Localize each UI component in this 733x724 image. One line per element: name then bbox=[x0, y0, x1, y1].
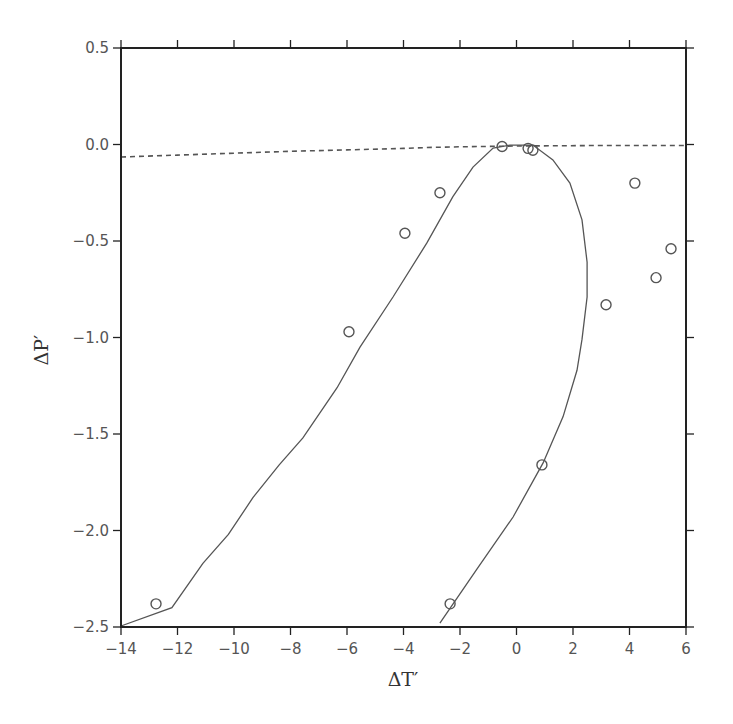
reference-curve-path bbox=[121, 146, 686, 158]
y-axis-ticks: 0.50.0−0.5−1.0−1.5−2.0−2.5 bbox=[73, 39, 694, 636]
x-tick-label: −12 bbox=[162, 640, 194, 658]
x-tick-label: 4 bbox=[625, 640, 635, 658]
y-tick-label: −2.5 bbox=[73, 618, 109, 636]
y-tick-label: −0.5 bbox=[73, 232, 109, 250]
x-axis-label: ΔT′ bbox=[388, 668, 419, 690]
data-point-marker bbox=[651, 273, 661, 283]
x-tick-label: 6 bbox=[681, 640, 691, 658]
x-tick-label: −14 bbox=[105, 640, 137, 658]
chart: −14−12−10−8−6−4−20246 0.50.0−0.5−1.0−1.5… bbox=[0, 0, 733, 724]
fitted-curve-path bbox=[121, 145, 587, 626]
x-tick-label: 2 bbox=[568, 640, 578, 658]
y-tick-label: −1.5 bbox=[73, 425, 109, 443]
x-tick-label: 0 bbox=[512, 640, 522, 658]
scatter-plot: −14−12−10−8−6−4−20246 0.50.0−0.5−1.0−1.5… bbox=[0, 0, 733, 724]
data-point-marker bbox=[435, 188, 445, 198]
x-tick-label: −6 bbox=[336, 640, 358, 658]
x-tick-label: −4 bbox=[392, 640, 414, 658]
data-point-marker bbox=[400, 228, 410, 238]
y-tick-label: 0.5 bbox=[85, 39, 109, 57]
y-axis-label: ΔP′ bbox=[30, 335, 52, 366]
reference-dashed-curve bbox=[121, 146, 686, 158]
y-tick-label: −1.0 bbox=[73, 329, 109, 347]
data-point-marker bbox=[151, 599, 161, 609]
data-point-marker bbox=[601, 300, 611, 310]
y-tick-label: 0.0 bbox=[85, 136, 109, 154]
data-points bbox=[151, 141, 676, 608]
y-tick-label: −2.0 bbox=[73, 522, 109, 540]
data-point-marker bbox=[666, 244, 676, 254]
x-tick-label: −2 bbox=[449, 640, 471, 658]
x-axis-ticks: −14−12−10−8−6−4−20246 bbox=[105, 40, 691, 658]
data-point-marker bbox=[630, 178, 640, 188]
data-point-marker bbox=[344, 327, 354, 337]
plot-frame bbox=[121, 48, 686, 627]
x-tick-label: −8 bbox=[279, 640, 301, 658]
fitted-curve bbox=[121, 145, 587, 626]
x-tick-label: −10 bbox=[218, 640, 250, 658]
